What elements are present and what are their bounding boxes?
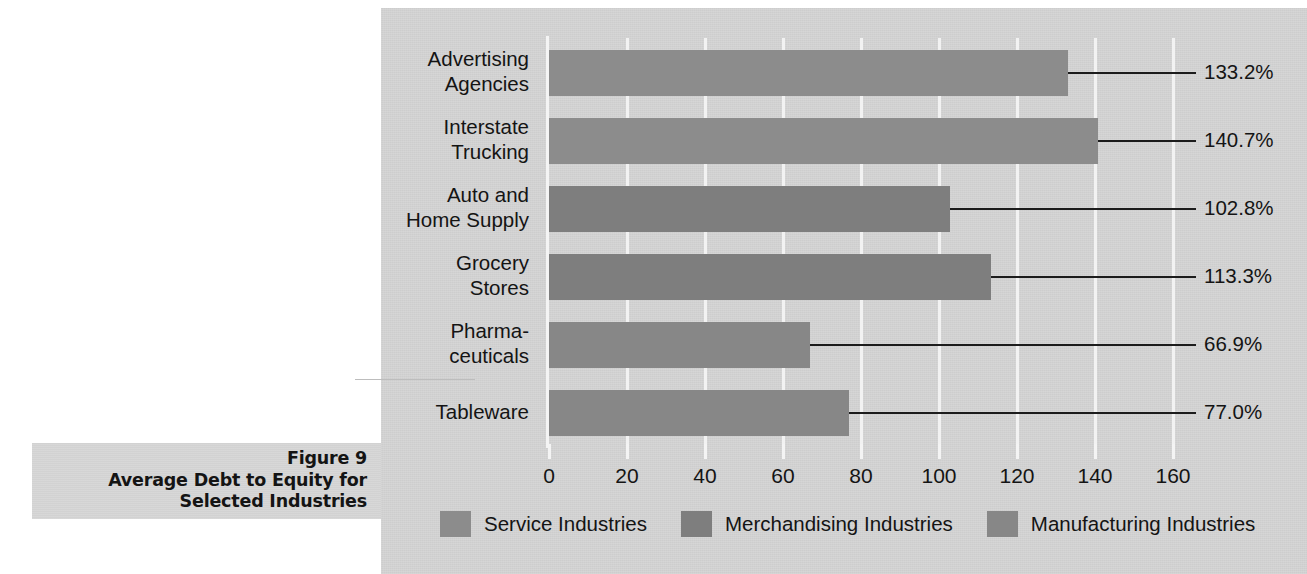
category-label-line: Interstate	[229, 114, 529, 139]
x-axis-tick-label: 80	[831, 464, 891, 488]
legend-item: Manufacturing Industries	[987, 511, 1255, 537]
chart-legend: Service IndustriesMerchandising Industri…	[440, 508, 1255, 540]
category-label: Tableware	[229, 399, 529, 424]
leader-line	[1098, 140, 1196, 142]
data-value-label: 113.3%	[1204, 266, 1272, 286]
gridline	[1016, 38, 1019, 444]
caption-hairline	[355, 379, 475, 380]
gridline	[704, 38, 707, 444]
legend-label: Service Industries	[484, 512, 647, 536]
gridline	[1172, 38, 1175, 444]
category-label-line: Tableware	[229, 399, 529, 424]
category-label: AdvertisingAgencies	[229, 46, 529, 96]
x-axis-tick-label: 160	[1143, 464, 1203, 488]
x-axis-tick-label: 120	[987, 464, 1047, 488]
page-trim-top	[381, 0, 1307, 8]
category-label-line: Agencies	[229, 71, 529, 96]
leader-line	[849, 412, 1196, 414]
legend-gap	[953, 524, 987, 525]
legend-gap	[647, 524, 681, 525]
data-value-label: 102.8%	[1204, 198, 1274, 218]
x-axis-tick	[860, 444, 863, 459]
figure-page: AdvertisingAgenciesInterstateTruckingAut…	[0, 0, 1307, 574]
category-label-line: Advertising	[229, 46, 529, 71]
category-label-line: Pharma-	[229, 318, 529, 343]
category-label-line: Home Supply	[229, 207, 529, 232]
leader-line	[810, 344, 1196, 346]
caption-line-2: Average Debt to Equity for	[108, 470, 367, 492]
bar	[549, 254, 991, 300]
x-axis-tick	[548, 444, 551, 459]
x-axis-tick	[1172, 444, 1175, 459]
gridline	[938, 38, 941, 444]
legend-swatch	[440, 511, 471, 537]
data-value-label: 140.7%	[1204, 130, 1274, 150]
x-axis-tick	[938, 444, 941, 459]
category-label: GroceryStores	[229, 250, 529, 300]
figure-caption: Figure 9 Average Debt to Equity for Sele…	[108, 448, 367, 513]
x-axis-tick-label: 140	[1065, 464, 1125, 488]
legend-label: Merchandising Industries	[725, 512, 953, 536]
bar	[549, 50, 1068, 96]
leader-line	[1068, 72, 1196, 74]
x-axis-tick-label: 20	[597, 464, 657, 488]
gridline	[782, 38, 785, 444]
x-axis-tick-label: 0	[519, 464, 579, 488]
y-axis-line	[546, 36, 549, 448]
bar	[549, 322, 810, 368]
category-label-line: Auto and	[229, 182, 529, 207]
category-label: Auto andHome Supply	[229, 182, 529, 232]
category-label-line: Stores	[229, 275, 529, 300]
page-trim-bottom-left	[0, 519, 381, 574]
legend-item: Merchandising Industries	[681, 511, 953, 537]
gridline	[860, 38, 863, 444]
category-label-line: ceuticals	[229, 343, 529, 368]
leader-line	[950, 208, 1196, 210]
bar	[549, 186, 950, 232]
data-value-label: 133.2%	[1204, 62, 1274, 82]
legend-swatch	[987, 511, 1018, 537]
x-axis-tick	[1016, 444, 1019, 459]
legend-label: Manufacturing Industries	[1031, 512, 1255, 536]
category-label-line: Trucking	[229, 139, 529, 164]
x-axis-tick	[1094, 444, 1097, 459]
x-axis-tick-label: 40	[675, 464, 735, 488]
x-axis-tick	[782, 444, 785, 459]
data-value-label: 77.0%	[1204, 402, 1262, 422]
bar	[549, 390, 849, 436]
gridline	[1094, 38, 1097, 444]
bar	[549, 118, 1098, 164]
x-axis-tick-label: 60	[753, 464, 813, 488]
category-label: Pharma-ceuticals	[229, 318, 529, 368]
x-axis-tick-label: 100	[909, 464, 969, 488]
category-label: InterstateTrucking	[229, 114, 529, 164]
gridline	[626, 38, 629, 444]
legend-swatch	[681, 511, 712, 537]
caption-line-3: Selected Industries	[108, 491, 367, 513]
x-axis-tick	[626, 444, 629, 459]
leader-line	[991, 276, 1196, 278]
category-label-line: Grocery	[229, 250, 529, 275]
data-value-label: 66.9%	[1204, 334, 1262, 354]
legend-item: Service Industries	[440, 511, 647, 537]
caption-line-1: Figure 9	[108, 448, 367, 470]
x-axis-tick	[704, 444, 707, 459]
figure-caption-band: Figure 9 Average Debt to Equity for Sele…	[32, 443, 381, 519]
